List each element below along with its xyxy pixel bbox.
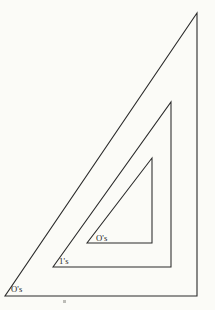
scan-speck — [63, 300, 66, 303]
paper-background — [0, 0, 215, 310]
middle-region-label: 1's — [59, 256, 69, 266]
outer-region-label: O's — [11, 284, 23, 294]
inner-region-label: O's — [96, 233, 108, 243]
nested-triangles-figure: O's 1's O's — [0, 0, 215, 310]
figure-root: O's 1's O's — [0, 0, 215, 310]
